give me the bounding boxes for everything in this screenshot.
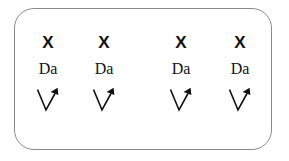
- symbol-grid: X Da X Da X Da: [0, 0, 289, 161]
- symbol-column: X Da: [212, 30, 268, 130]
- v-arrow-up-right-icon: [153, 82, 209, 121]
- column-label: Da: [212, 56, 268, 82]
- v-arrow-up-right-icon: [212, 82, 268, 121]
- x-mark-icon: X: [212, 30, 268, 56]
- diagram-canvas: X Da X Da X Da: [0, 0, 289, 161]
- symbol-column: X Da: [153, 30, 209, 130]
- x-mark-icon: X: [76, 30, 132, 56]
- symbol-column: X Da: [20, 30, 76, 130]
- v-arrow-up-right-icon: [76, 82, 132, 121]
- column-label: Da: [20, 56, 76, 82]
- x-mark-icon: X: [153, 30, 209, 56]
- x-mark-icon: X: [20, 30, 76, 56]
- column-label: Da: [153, 56, 209, 82]
- v-arrow-up-right-icon: [20, 82, 76, 121]
- column-label: Da: [76, 56, 132, 82]
- symbol-column: X Da: [76, 30, 132, 130]
